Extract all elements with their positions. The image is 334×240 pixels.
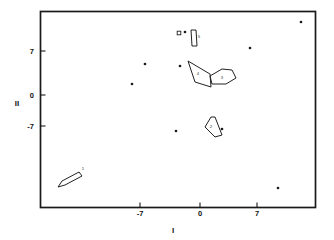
y-tick-label-0: 0 — [30, 91, 34, 100]
x-tick-label-neg7: -7 — [137, 209, 144, 218]
x-tick-label-7: 7 — [255, 209, 259, 218]
region-label: 1 — [82, 166, 85, 171]
plot-canvas: -7 0 7 7 0 -7 I II 12345 — [0, 0, 334, 240]
data-point — [277, 187, 280, 190]
scatter-points — [131, 21, 303, 190]
region-label: 4 — [197, 71, 200, 76]
region-polygon-5 — [191, 30, 197, 46]
y-axis-title: II — [15, 99, 19, 108]
marker-square — [177, 31, 181, 35]
data-point — [131, 83, 134, 86]
x-tick-label-0: 0 — [198, 209, 202, 218]
y-tick-label-neg7: -7 — [27, 122, 34, 131]
region-label: 5 — [198, 34, 201, 39]
x-axis-title: I — [172, 226, 174, 235]
data-point — [300, 21, 303, 24]
open-square-markers — [177, 31, 181, 35]
data-point — [221, 128, 224, 131]
region-polygon-2 — [205, 117, 222, 137]
data-point — [144, 63, 147, 66]
data-point — [249, 47, 252, 50]
region-label: 3 — [221, 75, 224, 80]
region-polygon-1 — [58, 172, 82, 187]
y-tick-label-7: 7 — [30, 47, 34, 56]
plot-frame — [41, 12, 316, 208]
scatter-plot-figure: -7 0 7 7 0 -7 I II 12345 — [0, 0, 334, 240]
data-point — [184, 31, 187, 34]
region-polygon-4 — [188, 61, 211, 87]
region-label: 2 — [210, 124, 213, 129]
data-point — [179, 65, 182, 68]
region-labels: 12345 — [82, 34, 224, 171]
region-overlays — [58, 30, 236, 187]
data-point — [175, 130, 178, 133]
